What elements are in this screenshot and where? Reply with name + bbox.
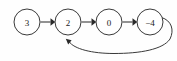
- edge-3-to-2: [41, 18, 56, 25]
- node-0-label: 0: [107, 18, 112, 28]
- node-3[interactable]: 3: [14, 9, 40, 35]
- node-0[interactable]: 0: [96, 9, 122, 35]
- node-2-label: 2: [66, 18, 71, 28]
- diagram-canvas: 3 2 0 −4: [0, 0, 177, 61]
- directed-graph: 3 2 0 −4: [0, 0, 177, 61]
- node-3-label: 3: [25, 18, 30, 28]
- edge-2-to-0: [82, 18, 97, 25]
- node-2[interactable]: 2: [55, 9, 81, 35]
- node-minus4-label: −4: [145, 18, 155, 28]
- edge-0-to-minus4: [123, 18, 138, 25]
- node-minus4[interactable]: −4: [137, 9, 163, 35]
